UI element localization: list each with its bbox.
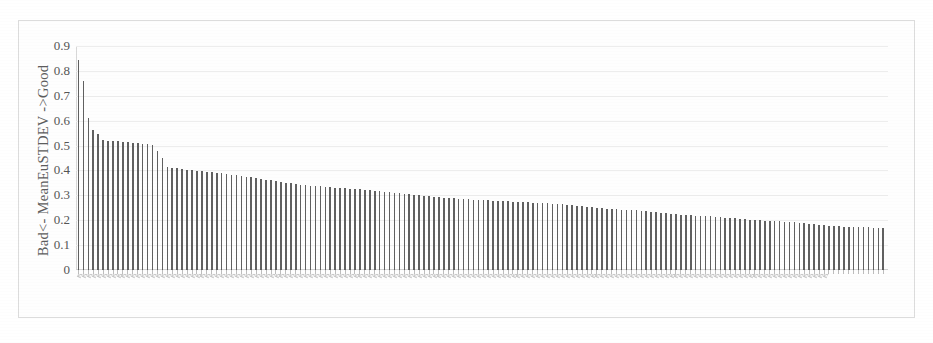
bar xyxy=(586,207,588,270)
bar xyxy=(650,212,652,270)
bar xyxy=(236,175,238,270)
bar xyxy=(122,142,124,270)
bar xyxy=(700,216,702,270)
bar xyxy=(621,210,623,270)
bar xyxy=(606,209,608,270)
bar xyxy=(483,200,485,270)
bar xyxy=(265,180,267,270)
bar xyxy=(117,141,119,270)
bar xyxy=(275,181,277,270)
bar xyxy=(102,140,104,270)
bar xyxy=(512,202,514,270)
bar xyxy=(428,196,430,270)
bar xyxy=(739,219,741,270)
bar xyxy=(384,192,386,270)
bar xyxy=(399,193,401,270)
bar xyxy=(527,202,529,270)
bar xyxy=(241,176,243,270)
bar xyxy=(562,204,564,270)
bar xyxy=(463,199,465,270)
bar xyxy=(300,185,302,270)
bar xyxy=(517,202,519,270)
bar xyxy=(127,142,129,270)
bar-series xyxy=(76,46,888,270)
bar xyxy=(226,174,228,270)
bar xyxy=(295,184,297,270)
bar xyxy=(576,206,578,270)
bar xyxy=(507,201,509,270)
bar xyxy=(211,172,213,270)
y-tick-label: 0 xyxy=(64,262,71,278)
bar xyxy=(315,186,317,270)
bar xyxy=(754,220,756,270)
bar xyxy=(596,208,598,270)
bar xyxy=(848,227,850,270)
bar xyxy=(191,170,193,270)
bar xyxy=(280,182,282,270)
bar xyxy=(566,205,568,270)
bar xyxy=(552,204,554,270)
bar xyxy=(542,203,544,270)
bar xyxy=(611,209,613,270)
bar xyxy=(250,177,252,270)
bar xyxy=(838,226,840,270)
bar xyxy=(720,217,722,270)
bar xyxy=(724,218,726,271)
bar xyxy=(260,179,262,270)
bar xyxy=(497,201,499,270)
bar xyxy=(581,206,583,270)
bar xyxy=(206,172,208,270)
bar xyxy=(255,178,257,270)
bar xyxy=(744,219,746,270)
bar xyxy=(655,212,657,270)
bar xyxy=(374,191,376,270)
bar xyxy=(167,167,169,270)
bar xyxy=(729,218,731,270)
bar xyxy=(799,223,801,270)
bar xyxy=(808,224,810,270)
bar xyxy=(132,143,134,270)
bar xyxy=(458,199,460,270)
bar xyxy=(369,190,371,270)
bar xyxy=(502,201,504,270)
bar xyxy=(537,203,539,270)
bar xyxy=(690,215,692,270)
bar xyxy=(354,189,356,270)
bar xyxy=(818,225,820,270)
bar xyxy=(112,141,114,270)
bar xyxy=(591,207,593,270)
y-tick-label: 0.5 xyxy=(54,138,70,154)
bar xyxy=(196,171,198,270)
bar xyxy=(270,180,272,270)
bar xyxy=(665,213,667,270)
bar xyxy=(813,224,815,270)
bar xyxy=(320,186,322,270)
y-axis-title: Bad<- MeanEuSTDEV ->Good xyxy=(35,46,52,276)
bar xyxy=(443,198,445,270)
plot-area: 00.10.20.30.40.50.60.70.80.9 xyxy=(76,46,888,270)
bar xyxy=(794,222,796,270)
bar xyxy=(868,227,870,270)
bar xyxy=(433,197,435,270)
bar xyxy=(759,220,761,270)
bar xyxy=(779,221,781,270)
bar xyxy=(310,186,312,270)
bar xyxy=(157,151,159,270)
bar xyxy=(749,220,751,270)
bar xyxy=(181,169,183,270)
bar xyxy=(176,168,178,270)
bar xyxy=(522,202,524,270)
bar xyxy=(626,210,628,270)
y-tick-label: 0.9 xyxy=(54,38,70,54)
bar xyxy=(216,173,218,270)
bar xyxy=(329,187,331,270)
bar xyxy=(858,227,860,270)
bar xyxy=(78,60,80,270)
bar xyxy=(547,203,549,270)
bar xyxy=(379,191,381,270)
bar xyxy=(670,214,672,270)
bar xyxy=(325,187,327,270)
bar xyxy=(339,188,341,270)
bar xyxy=(389,192,391,270)
y-tick-label: 0.3 xyxy=(54,187,70,203)
